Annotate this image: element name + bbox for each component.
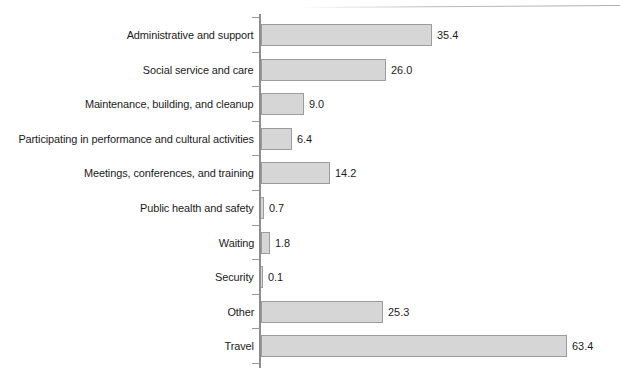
category-label: Meetings, conferences, and training — [84, 162, 254, 184]
bar — [261, 93, 304, 115]
axis-tick — [252, 155, 260, 156]
bar-row: Social service and care26.0 — [0, 59, 620, 81]
bar-value-label: 14.2 — [335, 162, 356, 184]
bar-value-label: 1.8 — [275, 232, 290, 254]
axis-tick — [252, 17, 260, 18]
axis-tick — [252, 294, 260, 295]
bar-row: Travel63.4 — [0, 335, 620, 357]
axis-tick — [252, 121, 260, 122]
axis-tick — [252, 363, 260, 364]
axis-tick — [252, 328, 260, 329]
bar-row: Other25.3 — [0, 301, 620, 323]
category-label: Public health and safety — [140, 197, 254, 219]
bar-chart: Administrative and support35.4Social ser… — [0, 0, 620, 376]
bar — [261, 59, 386, 81]
axis-tick — [252, 86, 260, 87]
bar-value-label: 26.0 — [391, 59, 412, 81]
bar-row: Public health and safety0.7 — [0, 197, 620, 219]
bar — [261, 301, 383, 323]
category-label: Other — [227, 301, 254, 323]
bar-value-label: 35.4 — [437, 24, 458, 46]
axis-tick — [252, 259, 260, 260]
bar-value-label: 6.4 — [297, 128, 312, 150]
bar-value-label: 9.0 — [309, 93, 324, 115]
axis-tick — [252, 52, 260, 53]
bar — [261, 197, 264, 219]
bar-value-label: 0.1 — [268, 266, 283, 288]
category-label: Security — [215, 266, 254, 288]
bar-row: Administrative and support35.4 — [0, 24, 620, 46]
bar — [261, 335, 567, 357]
bar — [261, 232, 270, 254]
category-label: Administrative and support — [127, 24, 254, 46]
plot-area: Administrative and support35.4Social ser… — [0, 0, 620, 376]
bar — [261, 162, 330, 184]
bar — [261, 24, 432, 46]
category-label: Social service and care — [143, 59, 254, 81]
category-label: Travel — [225, 335, 254, 357]
axis-tick — [252, 190, 260, 191]
axis-tick — [252, 225, 260, 226]
bar-value-label: 25.3 — [388, 301, 409, 323]
category-label: Waiting — [219, 232, 254, 254]
bar-row: Meetings, conferences, and training14.2 — [0, 162, 620, 184]
bar-value-label: 0.7 — [269, 197, 284, 219]
category-label: Maintenance, building, and cleanup — [85, 93, 254, 115]
bar-row: Participating in performance and cultura… — [0, 128, 620, 150]
bar — [261, 266, 263, 288]
category-label: Participating in performance and cultura… — [18, 128, 254, 150]
bar-row: Maintenance, building, and cleanup9.0 — [0, 93, 620, 115]
bar-value-label: 63.4 — [572, 335, 593, 357]
bar-row: Security0.1 — [0, 266, 620, 288]
bar-row: Waiting1.8 — [0, 232, 620, 254]
bar — [261, 128, 292, 150]
